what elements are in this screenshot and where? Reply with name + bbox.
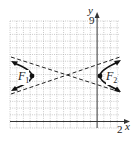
x-tick-label: 2 xyxy=(117,124,123,135)
x-axis xyxy=(10,119,130,124)
focus-1-label: F1 xyxy=(18,70,29,85)
focus-2-subscript: 2 xyxy=(113,76,117,85)
x-axis-label: x xyxy=(125,121,130,132)
y-tick-label: 9 xyxy=(89,15,95,26)
focus-2-label: F2 xyxy=(106,70,117,85)
hyperbola-diagram: y 9 2 x F1 F2 xyxy=(0,0,138,141)
y-axis xyxy=(95,12,100,128)
focus-1-subscript: 1 xyxy=(25,76,29,85)
